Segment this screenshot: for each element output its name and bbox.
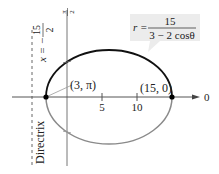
svg-text:3 − 2 cosθ: 3 − 2 cosθ [149,29,194,41]
vertical-axis-label: π 2 [60,8,76,16]
polar-graph: 5 10 0 π 2 x = − 15 2 Directrix (3, π) (… [0,0,219,174]
svg-text:r =: r = [133,21,147,33]
point-label-left: (3, π) [70,78,96,92]
tick-label-10: 10 [132,101,144,113]
ellipse-lower-half [46,97,172,144]
point-label-right: (15, 0) [140,81,172,95]
polar-axis-arrow-icon [192,95,200,100]
vertex-point-right [169,94,174,99]
leader-line [46,85,72,97]
directrix-equation: x = − 15 2 [31,23,55,63]
svg-text:π: π [60,10,68,14]
svg-text:15: 15 [31,25,42,35]
vertex-point-left [43,94,48,99]
directrix-label: Directrix [33,121,47,164]
polar-axis-label: 0 [204,91,210,103]
svg-text:x = −: x = − [36,37,48,63]
tick-label-5: 5 [99,101,105,113]
svg-text:2: 2 [68,10,76,14]
svg-text:2: 2 [44,28,55,33]
svg-text:15: 15 [165,15,177,27]
